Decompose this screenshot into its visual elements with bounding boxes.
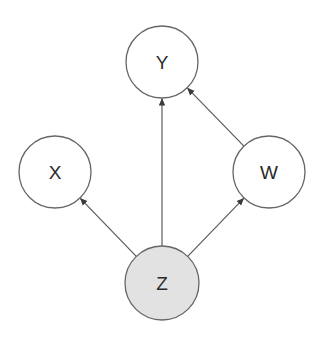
edge-z-to-w bbox=[188, 198, 244, 256]
edges bbox=[80, 88, 244, 256]
node-label: W bbox=[260, 162, 278, 183]
causal-diagram: YXWZ bbox=[0, 0, 320, 339]
node-label: Z bbox=[156, 273, 168, 294]
node-y: Y bbox=[126, 26, 198, 98]
node-z: Z bbox=[125, 246, 199, 320]
node-label: Y bbox=[156, 52, 169, 73]
node-label: X bbox=[49, 162, 62, 183]
edge-w-to-y bbox=[188, 88, 244, 146]
node-w: W bbox=[233, 136, 305, 208]
edge-z-to-x bbox=[80, 198, 136, 256]
node-x: X bbox=[19, 136, 91, 208]
